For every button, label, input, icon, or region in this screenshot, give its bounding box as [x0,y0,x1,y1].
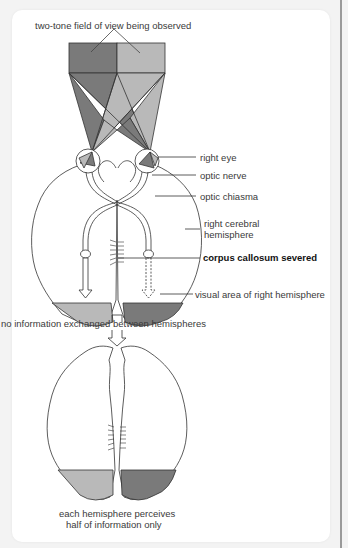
right-dashed-arrow [142,258,155,298]
split-brain-diagram [0,0,348,548]
no-exchange-label: no information exchanged between hemisph… [1,318,206,329]
field-of-view [69,43,165,152]
right-cerebral-hemisphere-label-2: hemisphere [204,229,254,240]
visual-area-label: visual area of right hemisphere [195,289,325,300]
field-of-view-label: two-tone field of view being observed [35,20,191,31]
right-visual-area-lower [121,470,176,500]
optic-chiasma-label: optic chiasma [200,191,258,202]
field-right-light [117,43,165,73]
eyes [76,149,159,173]
optic-nerve-label: optic nerve [200,170,246,181]
right-cerebral-hemisphere-label-1: right cerebral [204,218,259,229]
left-solid-arrow [79,258,92,298]
each-hemisphere-label-1: each hemisphere perceives [59,508,175,519]
arrows [79,258,155,298]
upper-brain [32,161,202,322]
corpus-callosum-label: corpus callosum severed [203,252,317,263]
each-hemisphere-label-2: half of information only [66,519,162,530]
left-visual-area-lower [58,470,113,500]
corpus-callosum-upper [110,240,124,265]
corpus-callosum-lower [108,425,126,450]
field-left-dark [69,43,117,73]
right-eye-label: right eye [200,152,236,163]
leader-lines [118,157,200,294]
